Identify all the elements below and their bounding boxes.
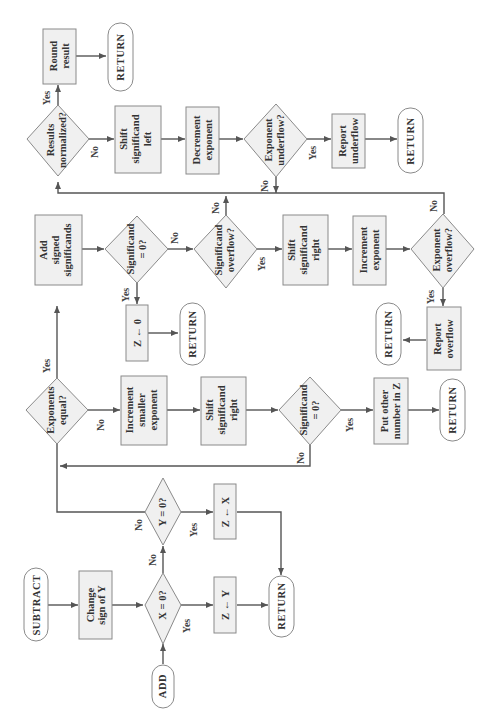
node-exp-overflow: Exponent overflow? <box>411 214 474 288</box>
svg-text:Change: Change <box>85 587 96 622</box>
svg-text:Significand: Significand <box>125 223 136 274</box>
svg-text:Shift: Shift <box>286 239 297 261</box>
node-exp-underflow: Exponent underflow? <box>244 104 307 177</box>
node-shift-right-1: Shift significand right <box>201 377 246 445</box>
svg-text:Report: Report <box>432 323 443 355</box>
svg-text:Add: Add <box>38 240 49 259</box>
node-add: ADD <box>152 665 174 708</box>
label-y-zero-no: No <box>133 519 144 531</box>
svg-text:underflow?: underflow? <box>275 114 286 165</box>
label-results-norm-yes: Yes <box>41 91 52 106</box>
node-return-4: RETURN <box>376 303 401 365</box>
node-shift-left: Shift significand left <box>115 106 161 173</box>
svg-text:signed: signed <box>50 236 61 265</box>
svg-text:Increment: Increment <box>124 386 135 433</box>
label-exp-overflow-yes: Yes <box>425 290 436 305</box>
svg-text:overflow?: overflow? <box>225 228 236 272</box>
svg-text:RETURN: RETURN <box>405 117 416 164</box>
svg-text:Exponents: Exponents <box>45 386 56 433</box>
label-exp-underflow-yes: Yes <box>307 146 318 161</box>
node-z-gets-0: Z ← 0 <box>126 305 148 361</box>
svg-text:Z ← X: Z ← X <box>220 496 231 527</box>
svg-text:Y = 0?: Y = 0? <box>157 498 168 527</box>
svg-text:= 0?: = 0? <box>137 239 148 258</box>
node-z-gets-x: Z ← X <box>214 484 236 539</box>
node-sig-zero-2: Significand = 0? <box>105 216 168 283</box>
svg-text:number in Z: number in Z <box>391 383 402 439</box>
svg-text:Significand: Significand <box>213 224 224 275</box>
node-inc-exp: Increment exponent <box>353 216 386 285</box>
label-exp-equal-yes: Yes <box>41 359 52 374</box>
svg-text:Put other: Put other <box>379 390 390 433</box>
svg-text:sign of Y: sign of Y <box>96 585 107 625</box>
label-x-zero-no: No <box>147 554 158 566</box>
node-add-signed: Add signed significands <box>35 215 82 285</box>
node-y-zero: Y = 0? <box>145 478 181 545</box>
flowchart: Yes No Yes No Yes No Yes No Yes No Yes N… <box>0 0 481 718</box>
svg-text:significand: significand <box>216 385 227 434</box>
node-change-sign: Change sign of Y <box>79 571 112 639</box>
node-return-1: RETURN <box>269 576 294 637</box>
node-inc-smaller: Increment smaller exponent <box>121 376 167 445</box>
node-shift-right-2: Shift significand right <box>283 215 328 285</box>
svg-text:Exponent: Exponent <box>431 228 442 272</box>
svg-text:X = 0?: X = 0? <box>157 590 168 619</box>
svg-text:Report: Report <box>337 125 348 157</box>
label-y-zero-yes: Yes <box>188 523 199 538</box>
svg-text:Shift: Shift <box>204 399 215 421</box>
svg-text:Increment: Increment <box>358 226 369 273</box>
svg-text:overflow: overflow <box>444 319 455 358</box>
label-sig-overflow-yes: Yes <box>256 257 267 272</box>
svg-text:SUBTRACT: SUBTRACT <box>31 574 42 635</box>
node-sig-zero-1: Significand = 0? <box>279 377 341 445</box>
svg-text:= 0?: = 0? <box>310 400 321 419</box>
node-results-norm: Results normalized? <box>27 105 89 176</box>
label-exp-overflow-no: No <box>428 200 439 212</box>
svg-text:RETURN: RETURN <box>115 33 126 80</box>
label-results-norm-no: No <box>89 146 100 158</box>
svg-text:right: right <box>310 238 321 261</box>
svg-text:underflow: underflow <box>349 118 360 165</box>
svg-text:Results: Results <box>45 124 56 157</box>
svg-text:normalized?: normalized? <box>57 112 68 168</box>
node-x-zero: X = 0? <box>145 573 181 644</box>
label-sig-zero-2-yes: Yes <box>120 288 131 303</box>
svg-text:overflow?: overflow? <box>443 228 454 272</box>
label-exp-equal-no: No <box>95 419 106 431</box>
label-x-zero-yes: Yes <box>181 619 192 634</box>
svg-text:RETURN: RETURN <box>383 310 394 357</box>
svg-text:RETURN: RETURN <box>187 310 198 357</box>
label-exp-underflow-no: No <box>259 180 270 192</box>
node-return-2: RETURN <box>440 379 465 441</box>
node-report-overflow: Report overflow <box>427 307 461 370</box>
label-sig-zero-1-no: No <box>295 452 306 464</box>
svg-text:exponent: exponent <box>148 389 159 430</box>
svg-text:Decrement: Decrement <box>191 115 202 164</box>
svg-text:result: result <box>60 43 71 69</box>
svg-text:RETURN: RETURN <box>276 582 287 629</box>
svg-text:equal?: equal? <box>57 395 68 425</box>
svg-text:RETURN: RETURN <box>447 386 458 433</box>
svg-text:Z ← 0: Z ← 0 <box>132 319 143 347</box>
svg-text:significand: significand <box>130 114 141 163</box>
svg-text:left: left <box>142 131 153 146</box>
node-round: Round result <box>43 29 76 84</box>
svg-text:Exponent: Exponent <box>263 118 274 162</box>
label-sig-zero-1-yes: Yes <box>344 418 355 433</box>
node-exp-equal: Exponents equal? <box>26 378 88 444</box>
node-return-6: RETURN <box>398 108 423 173</box>
svg-text:Shift: Shift <box>118 128 129 150</box>
svg-text:significands: significands <box>62 223 73 276</box>
svg-text:exponent: exponent <box>370 229 381 270</box>
node-z-gets-y: Z ← Y <box>214 577 236 633</box>
node-return-5: RETURN <box>108 23 133 91</box>
svg-text:Round: Round <box>48 41 59 72</box>
svg-text:Significand: Significand <box>298 384 309 435</box>
node-dec-exp: Decrement exponent <box>186 107 219 174</box>
node-subtract: SUBTRACT <box>24 568 48 641</box>
node-report-underflow: Report underflow <box>332 114 365 168</box>
label-sig-zero-2-no: No <box>169 232 180 244</box>
label-sig-overflow-no: No <box>210 202 221 214</box>
svg-text:Z ← Y: Z ← Y <box>220 590 231 620</box>
svg-text:smaller: smaller <box>136 393 147 427</box>
